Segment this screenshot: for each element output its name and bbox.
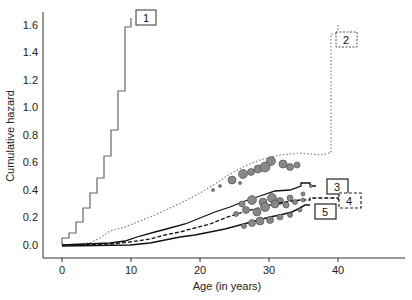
chart-container: 0.0 0.2 0.4 0.6 0.8 1.0 1.2 1.4 1.6 0 10…: [0, 0, 412, 300]
x-tick-label: 20: [194, 264, 206, 276]
series-label-5: 5: [315, 204, 336, 219]
svg-text:1: 1: [143, 12, 149, 24]
svg-text:3: 3: [334, 181, 340, 193]
svg-text:5: 5: [322, 206, 328, 218]
y-tick-label: 0.2: [23, 211, 38, 223]
series-2-line: [62, 25, 338, 245]
y-ticks: 0.0 0.2 0.4 0.6 0.8 1.0 1.2 1.4 1.6: [23, 19, 38, 251]
y-tick-label: 0.0: [23, 239, 38, 251]
svg-text:4: 4: [346, 195, 352, 207]
x-tick-label: 40: [332, 264, 344, 276]
cumulative-hazard-chart: 0.0 0.2 0.4 0.6 0.8 1.0 1.2 1.4 1.6 0 10…: [0, 0, 412, 300]
series-label-4: 4: [339, 193, 361, 208]
series-label-2: 2: [336, 32, 357, 47]
x-tick-label: 10: [125, 264, 137, 276]
y-tick-label: 1.4: [23, 46, 38, 58]
series-1-line: [62, 18, 131, 245]
svg-text:2: 2: [343, 34, 349, 46]
x-tick-label: 0: [59, 264, 65, 276]
y-tick-label: 0.8: [23, 129, 38, 141]
y-tick-label: 1.0: [23, 101, 38, 113]
y-axis-title: Cumulative hazard: [4, 90, 16, 182]
series-5-line: [62, 205, 310, 246]
series-2-markers: [212, 157, 301, 192]
y-tick-label: 0.6: [23, 156, 38, 168]
series-label-1: 1: [136, 10, 156, 25]
x-tick-label: 30: [263, 264, 275, 276]
x-axis-title: Age (in years): [193, 280, 261, 292]
y-tick-label: 1.6: [23, 19, 38, 31]
y-tick-label: 0.4: [23, 184, 38, 196]
x-ticks: 0 10 20 30 40: [59, 258, 344, 276]
series-label-3: 3: [327, 179, 348, 194]
y-tick-label: 1.2: [23, 74, 38, 86]
